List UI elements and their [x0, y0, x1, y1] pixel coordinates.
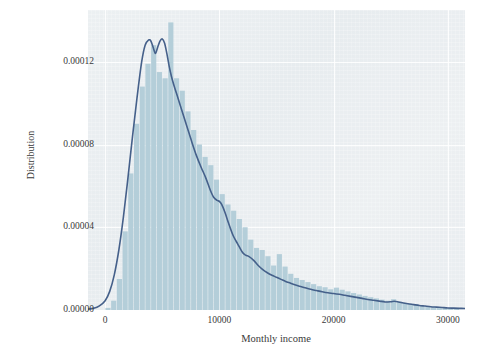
- histogram-bar: [157, 72, 162, 310]
- histogram-bar: [317, 286, 322, 310]
- histogram-bar: [191, 130, 196, 310]
- histogram-bar: [271, 266, 276, 310]
- y-axis-label: Distribution: [25, 131, 36, 179]
- histogram-bar: [294, 278, 299, 310]
- histogram-bar: [265, 256, 270, 310]
- histogram-bar: [345, 291, 350, 310]
- histogram-bar: [334, 288, 339, 310]
- histogram-bar: [231, 211, 236, 310]
- histogram-bar: [134, 124, 139, 310]
- histogram-bar: [288, 274, 293, 310]
- histogram-bar: [174, 78, 179, 310]
- histogram-bar: [351, 293, 356, 310]
- histogram-bar: [254, 248, 259, 310]
- x-axis-label: Monthly income: [241, 333, 311, 344]
- histogram-bar: [123, 231, 128, 310]
- histogram-bar: [145, 64, 150, 310]
- histogram-bar: [340, 290, 345, 310]
- y-tick-label: 0.00000: [63, 304, 94, 314]
- histogram-bar: [185, 111, 190, 310]
- histogram-bar: [117, 279, 122, 310]
- histogram-bar: [248, 240, 253, 310]
- histogram-bar: [243, 227, 248, 310]
- histogram-bar: [163, 78, 168, 310]
- histogram-bar: [283, 267, 288, 310]
- x-tick-label: 10000: [208, 315, 232, 325]
- histogram-bar: [180, 91, 185, 310]
- histogram-bar: [151, 45, 156, 310]
- histogram-bars: [105, 22, 459, 310]
- x-tick-label: 0: [103, 315, 108, 325]
- histogram-bar: [128, 173, 133, 310]
- histogram-bar: [140, 87, 145, 310]
- histogram-bar: [322, 287, 327, 310]
- histogram-bar: [277, 254, 282, 310]
- plot-area: [88, 10, 465, 310]
- histogram-bar: [311, 284, 316, 310]
- y-tick-label: 0.00004: [63, 221, 94, 231]
- figure: 0.000000.000040.000080.00012 01000020000…: [0, 0, 479, 355]
- histogram-bar: [260, 250, 265, 310]
- y-tick-label: 0.00012: [63, 56, 94, 66]
- chart-canvas: [88, 10, 465, 310]
- x-tick-label: 30000: [436, 315, 460, 325]
- histogram-bar: [105, 308, 110, 310]
- histogram-bar: [300, 280, 305, 310]
- x-tick-label: 20000: [322, 315, 346, 325]
- histogram-bar: [237, 219, 242, 310]
- histogram-bar: [305, 282, 310, 310]
- y-tick-label: 0.00008: [63, 139, 94, 149]
- histogram-bar: [111, 301, 116, 310]
